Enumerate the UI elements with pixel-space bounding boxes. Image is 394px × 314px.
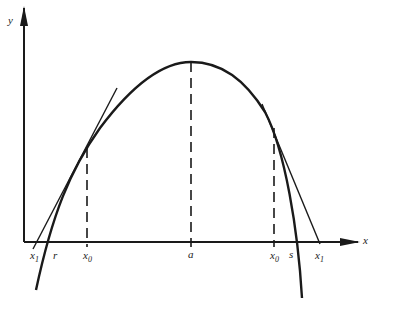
label-a: a <box>188 248 194 260</box>
label-s: s <box>289 248 293 260</box>
label-x1-left: x1 <box>29 249 39 264</box>
label-x0-right: x0 <box>269 249 279 264</box>
label-x0-left: x0 <box>82 249 92 264</box>
label-x1-right: x1 <box>314 249 324 264</box>
newton-method-diagram: y x x1 r x0 a x0 s x1 <box>0 0 394 314</box>
label-r: r <box>53 249 58 261</box>
function-curve <box>36 62 302 298</box>
y-axis-label: y <box>7 14 13 26</box>
left-tangent-line <box>33 88 117 249</box>
x-axis-label: x <box>362 234 368 246</box>
right-tangent-line <box>262 104 320 244</box>
